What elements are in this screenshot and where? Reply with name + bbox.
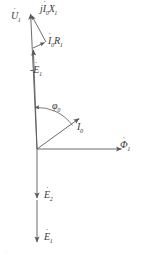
- dot-accent-e1: ˙: [46, 228, 49, 237]
- label-ji0x1: j˙I0X1: [40, 4, 57, 16]
- phasor-diagram-figure: ˙U1 j˙I0X1 ˙I0R1 -˙E1 φ0 ˙I0 ˙Φ1 ˙E2 ˙E1…: [0, 0, 141, 258]
- label-e1: ˙E1: [44, 232, 53, 244]
- vector-ji0x1: [32, 15, 46, 42]
- dot-accent-phi1: ˙: [122, 136, 125, 145]
- dot-accent-neg-e1: ˙: [35, 61, 38, 70]
- vector-i0: [37, 119, 79, 149]
- label-i0r1: ˙I0R1: [48, 36, 63, 48]
- dot-accent-e2: ˙: [46, 186, 49, 195]
- label-u1: ˙U1: [11, 11, 21, 23]
- label-e2: ˙E2: [44, 190, 53, 202]
- vector-i0r1: [33, 43, 45, 48]
- label-i0: ˙I0: [77, 122, 83, 134]
- dot-accent-u1: ˙: [13, 7, 16, 16]
- dot-accent-ji0x1: ˙: [43, 0, 46, 9]
- label-neg-e1: -˙E1: [30, 65, 42, 77]
- dot-accent-i0r1: ˙: [48, 32, 51, 41]
- label-phi0: φ0: [52, 101, 60, 113]
- label-phi1: ˙Φ1: [120, 140, 130, 152]
- phasor-diagram-canvas: [0, 0, 141, 258]
- corner-mark: ·: [5, 248, 7, 254]
- dot-accent-i0: ˙: [77, 118, 80, 127]
